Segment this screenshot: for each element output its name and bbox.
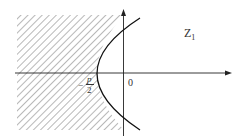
region-label: Z1 [184,27,195,42]
vertex-label-sign: − [78,80,83,90]
y-axis-arrow-icon [121,9,126,16]
region-label-subscript: 1 [191,33,195,42]
origin-label: 0 [128,78,133,88]
diagram-canvas [0,0,238,140]
vertex-label-numerator: p [87,74,92,84]
shaded-region [17,15,127,130]
vertex-label-denominator: 2 [87,85,92,95]
x-axis-arrow-icon [225,71,232,76]
